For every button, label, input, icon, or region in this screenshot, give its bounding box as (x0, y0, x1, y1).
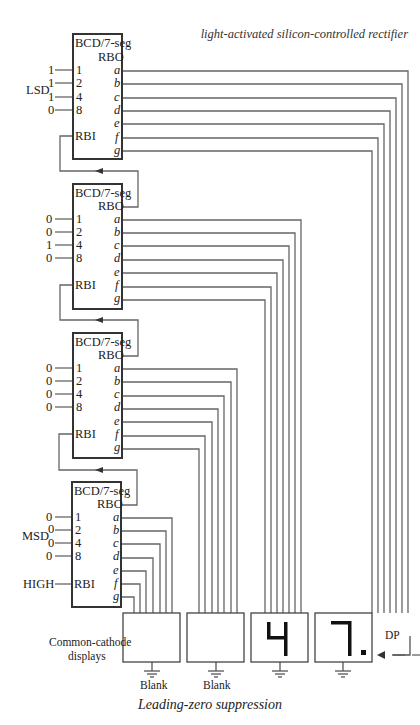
pin-label: 8 (75, 550, 81, 563)
decoder-3-rbo: RBO (98, 349, 124, 362)
decoder-2-title: BCD/7-seg (75, 187, 131, 200)
segment-label: b (114, 226, 120, 239)
segment-label: a (114, 64, 120, 77)
decoder-1-rbo: RBO (98, 51, 124, 64)
decoder-4-rbo: RBO (97, 498, 123, 511)
input-value: 0 (46, 213, 52, 226)
decoder-4-rbi: RBI (74, 578, 95, 591)
decoder-1-title: BCD/7-seg (75, 37, 131, 50)
pin-label: 1 (76, 64, 82, 77)
segment-label: e (114, 415, 120, 428)
segment-label: f (115, 428, 118, 441)
pin-label: 8 (76, 252, 82, 265)
segment-label: g (114, 144, 120, 157)
segment-label: d (114, 401, 120, 414)
input-value: 1 (46, 239, 52, 252)
segment-label: g (114, 292, 120, 305)
pin-label: 1 (76, 362, 82, 375)
pin-label: 2 (75, 524, 81, 537)
input-value: 0 (48, 104, 54, 117)
display-1 (123, 613, 180, 662)
segment-label: e (114, 266, 120, 279)
segment-label: e (114, 117, 120, 130)
pin-label: 8 (76, 104, 82, 117)
pin-label: 4 (76, 239, 82, 252)
decoder-4-title: BCD/7-seg (74, 485, 130, 498)
display-2-caption: Blank (203, 680, 230, 692)
segment-label: c (113, 537, 119, 550)
segment-label: c (114, 239, 120, 252)
segment-label: f (115, 279, 118, 292)
segment-label: e (113, 564, 119, 577)
segment-label: c (114, 388, 120, 401)
segment-label: a (114, 362, 120, 375)
decoder-3-title: BCD/7-seg (75, 336, 131, 349)
pin-label: 4 (76, 91, 82, 104)
decoder-1-rbi: RBI (75, 130, 96, 143)
pin-label: 2 (76, 77, 82, 90)
input-value: 0 (46, 226, 52, 239)
decoder-2-rbi: RBI (75, 279, 96, 292)
pin-label: 2 (76, 226, 82, 239)
display-2 (187, 613, 244, 662)
lsd-label: LSD (26, 84, 50, 97)
pin-label: 2 (76, 375, 82, 388)
high-label: HIGH (23, 578, 54, 591)
dp-label: DP (385, 630, 400, 642)
pin-label: 1 (76, 213, 82, 226)
input-value: 1 (48, 64, 54, 77)
pin-label: 4 (76, 388, 82, 401)
pin-label: 1 (75, 511, 81, 524)
displays-label-line2: displays (68, 651, 106, 663)
msd-label: MSD (22, 530, 49, 543)
segment-label: d (114, 104, 120, 117)
segment-label: g (114, 441, 120, 454)
segment-label: a (113, 511, 119, 524)
input-value: 0 (46, 550, 52, 563)
input-value: 0 (46, 401, 52, 414)
input-value: 0 (46, 375, 52, 388)
segment-label: a (114, 213, 120, 226)
wiring-diagram (0, 0, 420, 725)
displays-label-line1: Common-cathode (49, 637, 131, 649)
segment-label: d (114, 252, 120, 265)
input-value: 0 (46, 362, 52, 375)
pin-label: 8 (76, 401, 82, 414)
segment-label: b (114, 375, 120, 388)
input-value: 0 (46, 252, 52, 265)
figure-caption: Leading-zero suppression (0, 697, 420, 713)
decoder-2-rbo: RBO (98, 200, 124, 213)
display-1-caption: Blank (140, 680, 167, 692)
segment-label: b (113, 524, 119, 537)
segment-label: f (115, 131, 118, 144)
input-value: 0 (46, 388, 52, 401)
segment-label: g (113, 590, 119, 603)
segment-label: f (114, 577, 117, 590)
pin-label: 4 (75, 537, 81, 550)
segment-label: c (114, 91, 120, 104)
segment-label: d (113, 550, 119, 563)
segment-label: b (114, 77, 120, 90)
decoder-3-rbi: RBI (75, 428, 96, 441)
